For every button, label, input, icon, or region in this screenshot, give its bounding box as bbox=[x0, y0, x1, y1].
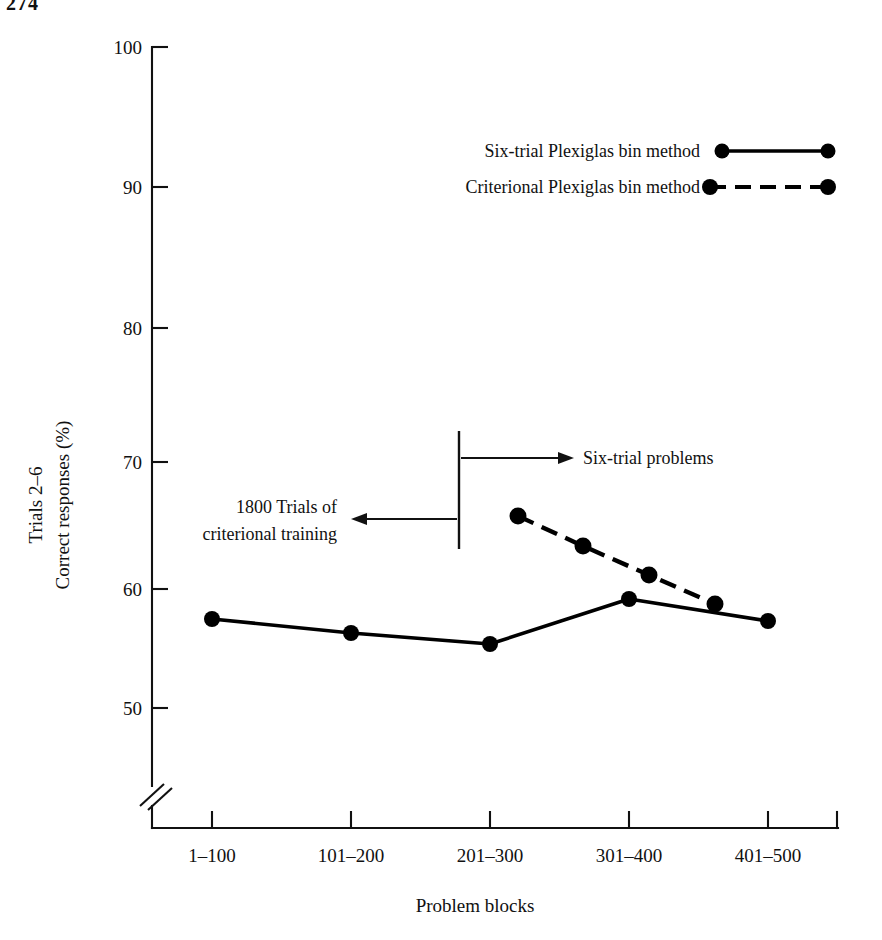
data-point bbox=[641, 567, 658, 584]
data-point bbox=[510, 508, 527, 525]
phase-divider-group: Six-trial problems 1800 Trials of criter… bbox=[203, 431, 714, 549]
data-point bbox=[482, 636, 498, 652]
y-axis-break-icon bbox=[140, 784, 172, 810]
y-tick-label-70: 70 bbox=[123, 452, 142, 473]
data-point bbox=[707, 596, 724, 613]
y-tick-label-80: 80 bbox=[123, 318, 142, 339]
y-ticks-group: 100 90 80 70 60 50 bbox=[114, 37, 169, 719]
y-tick-label-60: 60 bbox=[123, 579, 142, 600]
series-criterional-line bbox=[518, 516, 715, 604]
legend-marker bbox=[821, 144, 836, 159]
legend-label-criterional: Criterional Plexiglas bin method bbox=[466, 177, 700, 197]
data-point bbox=[343, 625, 359, 641]
data-point bbox=[760, 613, 776, 629]
data-point bbox=[575, 538, 592, 555]
six-trial-problems-label: Six-trial problems bbox=[583, 448, 713, 468]
x-tick-label-3: 201–300 bbox=[457, 845, 524, 866]
x-ticks-group: 1–100 101–200 201–300 301–400 401–500 bbox=[188, 811, 801, 866]
six-trial-arrow bbox=[461, 452, 574, 464]
x-tick-label-2: 101–200 bbox=[318, 845, 385, 866]
y-tick-label-50: 50 bbox=[123, 698, 142, 719]
figure-container: 274 100 90 8 bbox=[0, 0, 882, 940]
chart-svg: 100 90 80 70 60 50 1–100 101–200 201–300… bbox=[0, 0, 882, 940]
x-tick-label-4: 301–400 bbox=[596, 845, 663, 866]
x-tick-label-1: 1–100 bbox=[188, 845, 236, 866]
y-axis-title-line1: Trials 2–6 bbox=[25, 467, 46, 544]
criterional-training-label-line1: 1800 Trials of bbox=[236, 497, 337, 517]
criterional-training-arrow bbox=[351, 513, 457, 525]
legend-marker bbox=[715, 144, 730, 159]
series-criterional bbox=[510, 508, 724, 613]
legend-item-six-trial: Six-trial Plexiglas bin method bbox=[485, 141, 836, 161]
y-axis-title-line2: Correct responses (%) bbox=[52, 421, 74, 590]
x-axis-title: Problem blocks bbox=[416, 895, 535, 916]
legend-marker bbox=[702, 179, 718, 195]
axis-group bbox=[140, 47, 838, 828]
data-point bbox=[621, 591, 637, 607]
criterional-training-label-line2: criterional training bbox=[203, 524, 337, 544]
y-tick-label-100: 100 bbox=[114, 37, 143, 58]
x-tick-label-5: 401–500 bbox=[735, 845, 802, 866]
legend-item-criterional: Criterional Plexiglas bin method bbox=[466, 177, 836, 197]
legend-marker bbox=[820, 179, 836, 195]
data-point bbox=[204, 611, 220, 627]
y-tick-label-90: 90 bbox=[123, 177, 142, 198]
legend-label-six-trial: Six-trial Plexiglas bin method bbox=[485, 141, 700, 161]
legend: Six-trial Plexiglas bin method Criterion… bbox=[466, 141, 836, 197]
series-six-trial bbox=[204, 591, 776, 652]
